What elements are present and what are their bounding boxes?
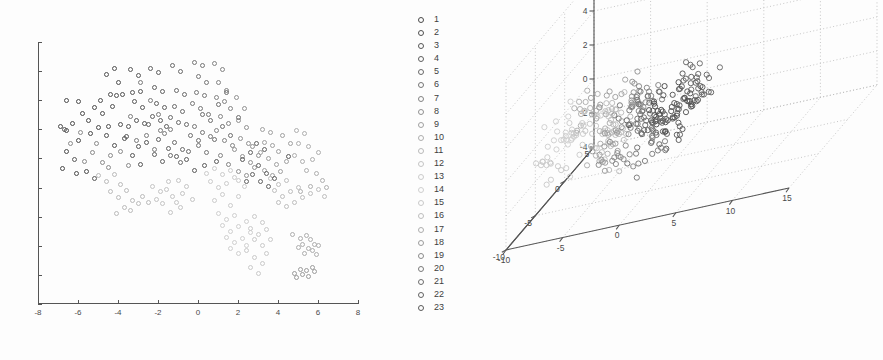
- scatter-point: [108, 189, 113, 194]
- scatter-point: [264, 227, 269, 232]
- scatter-point: [236, 194, 241, 199]
- scatter-point: [64, 149, 69, 154]
- legend-item[interactable]: 8: [412, 106, 472, 119]
- scatter-point-3d: [585, 88, 590, 93]
- x-tick-mark: [38, 300, 39, 304]
- scatter-point: [170, 194, 175, 199]
- scatter-point: [80, 111, 85, 116]
- legend-item[interactable]: 23: [412, 302, 472, 315]
- legend-item[interactable]: 4: [412, 53, 472, 66]
- scatter-point-3d: [605, 151, 610, 156]
- grid-line: [535, 154, 818, 216]
- legend-item-label: 18: [434, 237, 444, 248]
- scatter-point: [234, 95, 239, 100]
- legend-item[interactable]: 10: [412, 132, 472, 145]
- scatter-point: [224, 90, 229, 95]
- scatter-point: [212, 166, 217, 171]
- scatter-point: [148, 98, 153, 103]
- legend-item[interactable]: 17: [412, 224, 472, 237]
- legend-item[interactable]: 2: [412, 27, 472, 40]
- legend-marker-circle-icon: [418, 96, 424, 102]
- legend-item[interactable]: 5: [412, 66, 472, 79]
- scatter-point: [302, 251, 307, 256]
- scatter-point: [96, 125, 101, 130]
- grid-line: [789, 85, 877, 188]
- scatter-point: [284, 178, 289, 183]
- scatter-point: [100, 160, 105, 165]
- scatter-point: [152, 85, 157, 90]
- y-tick-mark: [38, 100, 42, 101]
- scatter-point: [104, 179, 109, 184]
- legend-item[interactable]: 18: [412, 237, 472, 250]
- legend-item-label: 11: [434, 145, 443, 156]
- scatter-point: [128, 208, 133, 213]
- legend-item[interactable]: 19: [412, 250, 472, 263]
- scatter-point: [152, 152, 157, 157]
- x-tick-label: 0: [186, 309, 210, 317]
- scatter-point: [156, 70, 161, 75]
- legend-item[interactable]: 12: [412, 158, 472, 171]
- scatter-point: [118, 182, 123, 187]
- scatter-point: [250, 172, 255, 177]
- grid-line: [619, 122, 707, 225]
- legend-item[interactable]: 9: [412, 119, 472, 132]
- legend-item[interactable]: 22: [412, 289, 472, 302]
- x-tick-mark: [358, 300, 359, 304]
- legend-marker-circle-icon: [418, 135, 424, 141]
- legend-item[interactable]: 21: [412, 276, 472, 289]
- scatter-point: [294, 128, 299, 133]
- scatter-point: [154, 101, 159, 106]
- legend-item-label: 20: [434, 263, 444, 274]
- scatter-point: [240, 236, 245, 241]
- y-tick-mark: [38, 217, 42, 218]
- legend-item[interactable]: 3: [412, 40, 472, 53]
- scatter-point: [268, 130, 273, 135]
- legend-marker-circle-icon: [418, 69, 424, 75]
- scatter-point: [214, 128, 219, 133]
- scatter-point: [182, 92, 187, 97]
- scatter-point-3d: [588, 95, 593, 100]
- legend-item[interactable]: 1: [412, 14, 472, 27]
- legend-item-label: 16: [434, 210, 444, 221]
- scatter-point-3d: [623, 77, 628, 82]
- legend-item[interactable]: 20: [412, 263, 472, 276]
- scatter-point: [72, 157, 77, 162]
- x-tick-label: -6: [66, 309, 90, 317]
- scatter-point: [244, 248, 249, 253]
- legend-item[interactable]: 7: [412, 93, 472, 106]
- scatter-point: [110, 104, 115, 109]
- scatter-point-3d: [563, 130, 568, 135]
- scatter-point: [140, 105, 145, 110]
- legend-item[interactable]: 14: [412, 184, 472, 197]
- scatter-point: [118, 122, 123, 127]
- scatter-point: [204, 80, 209, 85]
- scatter-point: [296, 245, 301, 250]
- scatter-point-3d: [680, 71, 685, 76]
- scatter-point-3d: [621, 137, 626, 142]
- scatter-point-3d: [689, 74, 694, 79]
- legend-marker-circle-icon: [418, 109, 424, 115]
- scatter-point: [86, 118, 91, 123]
- scatter-point: [120, 92, 125, 97]
- legend-item[interactable]: 6: [412, 79, 472, 92]
- legend-item[interactable]: 16: [412, 210, 472, 223]
- scatter-point: [172, 140, 177, 145]
- scatter-point: [224, 217, 229, 222]
- scatter-point: [190, 101, 195, 106]
- scatter-point: [174, 154, 179, 159]
- scatter-point: [228, 168, 233, 173]
- scatter-point-3d: [576, 99, 581, 104]
- axis-tick-label: 0: [615, 230, 620, 240]
- legend-item[interactable]: 15: [412, 197, 472, 210]
- legend-item[interactable]: 13: [412, 171, 472, 184]
- scatter-point: [280, 194, 285, 199]
- scatter-point-3d: [548, 177, 553, 182]
- plot-3d-canvas: -10-5051015-10-505-4-20246: [470, 0, 883, 360]
- legend-item-label: 14: [434, 184, 444, 195]
- scatter-point: [200, 63, 205, 68]
- legend-item[interactable]: 11: [412, 145, 472, 158]
- scatter-point-3d: [564, 166, 569, 171]
- matlab-figure: -10-8-6-4-202468-8-6-4-202468 1234567891…: [0, 0, 883, 360]
- grid-line: [676, 110, 764, 213]
- scatter-point: [228, 229, 233, 234]
